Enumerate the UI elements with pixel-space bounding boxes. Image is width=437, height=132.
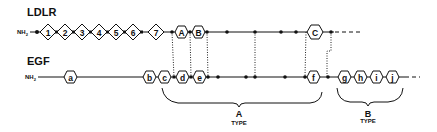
ldlr-egf-repeat-C: C bbox=[307, 25, 323, 39]
type-b-word: TYPE bbox=[360, 118, 376, 124]
egf-repeat-d: d bbox=[176, 71, 189, 83]
svg-text:2: 2 bbox=[63, 28, 68, 38]
svg-text:g: g bbox=[342, 73, 347, 83]
svg-text:f: f bbox=[312, 73, 315, 83]
svg-text:e: e bbox=[197, 73, 202, 83]
svg-text:a: a bbox=[68, 73, 73, 83]
ldlr-nh-text: NH bbox=[17, 29, 26, 35]
svg-text:b: b bbox=[147, 73, 152, 83]
egf-nh-text: NH bbox=[25, 74, 34, 80]
ldlr-repeat-3: 3 bbox=[74, 24, 90, 40]
svg-text:j: j bbox=[390, 73, 393, 83]
alignment-connectors bbox=[172, 32, 331, 77]
ldlr-title: LDLR bbox=[27, 6, 56, 18]
svg-text:1: 1 bbox=[46, 28, 51, 38]
ldlr-egf-alignment-diagram: LDLR EGF NH2 NH2 1 2 3 bbox=[0, 0, 437, 132]
egf-nh-subscript: 2 bbox=[34, 77, 37, 82]
svg-text:7: 7 bbox=[154, 28, 159, 38]
type-b-brace bbox=[337, 88, 403, 106]
ldlr-nh-subscript: 2 bbox=[26, 32, 29, 37]
egf-repeat-a: a bbox=[64, 71, 77, 83]
egf-repeat-h: h bbox=[354, 71, 367, 83]
connector-1 bbox=[172, 32, 174, 77]
egf-nh2-label: NH2 bbox=[25, 74, 37, 82]
egf-repeat-g: g bbox=[338, 71, 351, 83]
type-a-word: TYPE bbox=[231, 120, 247, 126]
svg-text:5: 5 bbox=[114, 28, 119, 38]
ldlr-repeat-5: 5 bbox=[108, 24, 124, 40]
egf-repeat-b: b bbox=[143, 71, 156, 83]
svg-text:d: d bbox=[180, 73, 185, 83]
egf-repeat-c: c bbox=[158, 71, 171, 83]
egf-repeat-f: f bbox=[307, 71, 320, 83]
connector-2 bbox=[190, 32, 191, 77]
svg-text:A: A bbox=[178, 28, 184, 38]
ldlr-repeat-1: 1 bbox=[40, 24, 56, 40]
ldlr-egf-repeat-B: B bbox=[192, 26, 205, 38]
ldlr-nh2-label: NH2 bbox=[17, 29, 29, 37]
egf-title: EGF bbox=[27, 55, 50, 67]
egf-repeat-e: e bbox=[193, 71, 206, 83]
egf-repeat-i: i bbox=[370, 71, 383, 83]
svg-text:3: 3 bbox=[80, 28, 85, 38]
ldlr-egf-repeat-A: A bbox=[175, 26, 188, 38]
svg-text:i: i bbox=[375, 73, 377, 83]
svg-text:6: 6 bbox=[131, 28, 136, 38]
connector-5 bbox=[305, 32, 306, 77]
ldlr-repeat-4: 4 bbox=[91, 24, 107, 40]
connector-3 bbox=[207, 32, 208, 77]
svg-text:C: C bbox=[312, 28, 318, 38]
type-a-letter: A bbox=[236, 109, 243, 119]
ldlr-repeat-2: 2 bbox=[57, 24, 73, 40]
ldlr-repeat-7: 7 bbox=[148, 24, 164, 40]
egf-repeat-j: j bbox=[386, 71, 399, 83]
svg-text:h: h bbox=[358, 73, 363, 83]
svg-text:B: B bbox=[195, 28, 201, 38]
ldlr-repeat-6: 6 bbox=[125, 24, 141, 40]
connector-6 bbox=[327, 32, 331, 77]
svg-text:c: c bbox=[162, 73, 167, 83]
svg-text:4: 4 bbox=[97, 28, 102, 38]
type-a-brace bbox=[162, 88, 322, 107]
